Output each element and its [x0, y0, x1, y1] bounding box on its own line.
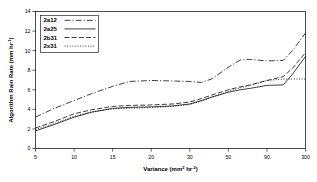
- y-tick-label: 0: [28, 145, 31, 151]
- y-tick-label: 4: [28, 106, 31, 112]
- y-tick-label: 14: [25, 8, 31, 14]
- y-tick-label: 12: [25, 28, 31, 34]
- line-chart: 5101520305090300 02468101214 2a122a252b3…: [0, 0, 317, 182]
- y-tick-label: 6: [28, 87, 31, 93]
- x-tick-label: 50: [225, 154, 231, 160]
- legend-label-2a12: 2a12: [44, 17, 58, 23]
- x-tick-label: 90: [264, 154, 270, 160]
- legend-label-2a25: 2a25: [44, 26, 58, 32]
- x-tick-label: 300: [301, 154, 310, 160]
- y-axis-title: Algorithm Rain Rate (mm hr-1): [7, 37, 14, 122]
- x-tick-label: 30: [187, 154, 193, 160]
- x-tick-label: 10: [71, 154, 77, 160]
- legend-label-2x31: 2x31: [44, 43, 58, 49]
- y-tick-label: 2: [28, 126, 31, 132]
- chart-legend: 2a122a252b312x31: [41, 16, 99, 53]
- x-axis-title: Variance (mm2 hr-2): [143, 165, 198, 172]
- y-tick-label: 10: [25, 48, 31, 54]
- chart-container: 5101520305090300 02468101214 2a122a252b3…: [0, 0, 317, 182]
- x-axis-ticks: 5101520305090300: [34, 149, 310, 160]
- plot-border: [36, 12, 306, 149]
- x-tick-label: 5: [34, 154, 37, 160]
- x-tick-label: 15: [110, 154, 116, 160]
- series-line-2a25: [36, 57, 306, 131]
- x-tick-label: 20: [148, 154, 154, 160]
- y-axis-ticks: 02468101214: [25, 8, 36, 151]
- plot-frame: [36, 12, 306, 149]
- legend-label-2b31: 2b31: [44, 35, 58, 41]
- series-line-2a12: [36, 33, 306, 117]
- y-tick-label: 8: [28, 67, 31, 73]
- data-series-group: [36, 33, 306, 131]
